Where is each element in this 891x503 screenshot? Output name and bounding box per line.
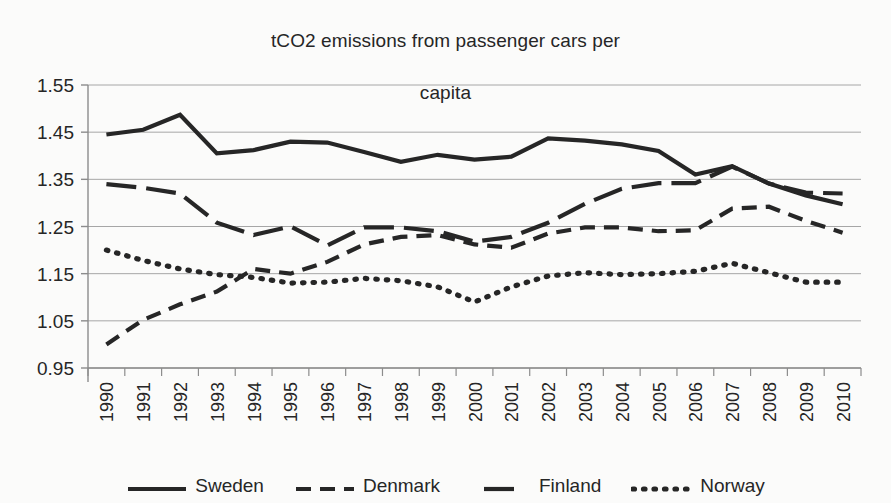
- y-axis-tick-label: 1.35: [37, 169, 74, 190]
- x-axis-tick-label: 2008: [760, 382, 780, 422]
- y-axis-tick-label: 0.95: [37, 358, 74, 379]
- x-axis-tick-label: 1993: [208, 382, 228, 422]
- x-axis-tick-label: 1990: [97, 382, 117, 422]
- y-axis-tick-label: 1.45: [37, 122, 74, 143]
- x-axis-tick-label: 2006: [686, 382, 706, 422]
- x-axis-tick-label: 1996: [318, 382, 338, 422]
- x-axis-tick-label: 2000: [466, 382, 486, 422]
- chart-legend: SwedenDenmarkFinlandNorway: [0, 475, 891, 497]
- y-axis-tick-label: 1.15: [37, 264, 74, 285]
- x-axis-tick-label: 1999: [429, 382, 449, 422]
- series-line-finland: [106, 167, 842, 246]
- y-axis-tick-label: 1.25: [37, 217, 74, 238]
- x-axis-tick-label: 1992: [171, 382, 191, 422]
- x-axis-tick-label: 2007: [723, 382, 743, 422]
- x-axis-tick-label: 2003: [576, 382, 596, 422]
- x-axis-tick-label: 1991: [134, 382, 154, 422]
- x-axis-tick-label: 2002: [539, 382, 559, 422]
- x-axis-tick-label: 1995: [281, 382, 301, 422]
- legend-key-denmark-icon: [294, 479, 356, 493]
- legend-item-denmark[interactable]: Denmark: [294, 475, 470, 497]
- legend-key-sweden-icon: [126, 479, 188, 493]
- legend-label: Sweden: [195, 475, 294, 497]
- x-axis-tick-label: 1997: [355, 382, 375, 422]
- legend-key-norway-icon: [631, 479, 693, 493]
- x-axis-tick-label: 2009: [797, 382, 817, 422]
- chart-plot-area: 0.951.051.151.251.351.451.55199019911992…: [0, 0, 891, 503]
- legend-label: Finland: [539, 475, 631, 497]
- legend-key-finland-icon: [470, 479, 532, 493]
- legend-item-norway[interactable]: Norway: [631, 475, 764, 497]
- x-axis-tick-label: 2005: [650, 382, 670, 422]
- x-axis-tick-label: 2010: [834, 382, 854, 422]
- x-axis-tick-label: 2004: [613, 382, 633, 422]
- y-axis-tick-label: 1.55: [37, 75, 74, 96]
- x-axis-tick-label: 1998: [392, 382, 412, 422]
- legend-label: Norway: [700, 475, 764, 497]
- legend-item-finland[interactable]: Finland: [470, 475, 631, 497]
- series-line-norway: [106, 250, 842, 302]
- chart-container: tCO2 emissions from passenger cars per c…: [0, 0, 891, 503]
- series-line-sweden: [106, 115, 842, 205]
- x-axis-tick-label: 2001: [502, 382, 522, 422]
- y-axis-tick-label: 1.05: [37, 311, 74, 332]
- x-axis-tick-label: 1994: [245, 382, 265, 422]
- legend-label: Denmark: [363, 475, 470, 497]
- legend-item-sweden[interactable]: Sweden: [126, 475, 294, 497]
